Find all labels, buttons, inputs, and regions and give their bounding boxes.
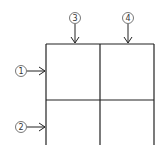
marker-3: 3 [70,13,81,44]
marker-4: 4 [123,13,134,44]
grid-diagram: 3 4 1 2 [0,0,166,145]
marker-2-number: 2 [18,123,23,132]
marker-3-number: 3 [72,14,77,23]
marker-1-number: 1 [18,67,23,76]
marker-4-number: 4 [125,14,130,23]
marker-2: 2 [16,122,46,133]
grid [46,44,154,145]
marker-1: 1 [16,66,46,77]
